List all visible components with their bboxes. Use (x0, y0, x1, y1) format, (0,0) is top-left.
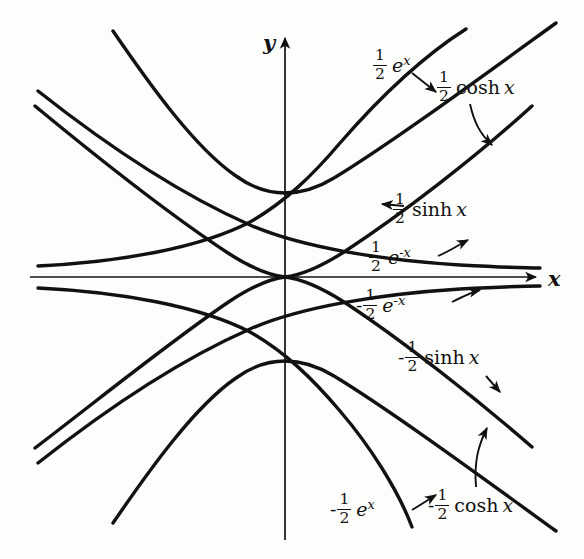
fraction-one-half: 1 2 (369, 240, 383, 274)
minus-sign: - (398, 346, 404, 368)
x-axis-label: x (548, 266, 561, 291)
curve-neg-half-exp-neg-x (38, 286, 540, 463)
hyperbolic-functions-figure: y x 1 2 ex 1 2 coshx 1 2 sinhx 1 2 e-x -… (0, 0, 584, 559)
fraction-one-half: 1 2 (337, 492, 351, 526)
fraction-one-half: 1 2 (435, 488, 449, 522)
annotation-neg-half-sinh-x: - 1 2 sinhx (398, 340, 479, 374)
fraction-one-half: 1 2 (405, 340, 419, 374)
leader-half-exp-x (412, 73, 436, 92)
leader-half-cosh-x (470, 104, 492, 145)
fraction-one-half: 1 2 (437, 70, 451, 104)
fraction-one-half: 1 2 (393, 192, 407, 226)
leader-neg-half-sinh-x (486, 376, 500, 392)
annotation-half-cosh-x: 1 2 coshx (436, 70, 515, 104)
fraction-one-half: 1 2 (363, 288, 377, 322)
annotation-neg-half-exp-x: - 1 2 ex (330, 492, 375, 526)
minus-sign: - (356, 294, 362, 316)
annotation-half-sinh-x: 1 2 sinhx (392, 192, 467, 226)
minus-sign: - (428, 494, 434, 516)
annotation-half-exp-neg-x: 1 2 e-x (368, 240, 411, 274)
minus-sign: - (330, 498, 336, 520)
y-axis-label: y (263, 30, 275, 55)
curve-cosh-half (113, 23, 556, 193)
annotation-neg-half-exp-neg-x: - 1 2 e-x (356, 288, 405, 322)
leader-half-exp-neg-x (438, 240, 468, 256)
fraction-one-half: 1 2 (373, 48, 387, 82)
annotation-half-exp-x: 1 2 ex (372, 48, 410, 82)
annotation-neg-half-cosh-x: - 1 2 coshx (428, 488, 513, 522)
leader-neg-half-exp-neg-x (452, 290, 480, 302)
